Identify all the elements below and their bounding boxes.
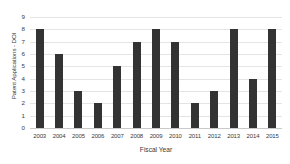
bar-slot [108, 17, 127, 128]
bar-slot [224, 17, 243, 128]
bar[interactable] [55, 54, 63, 128]
y-axis-tick-label: 5 [22, 63, 25, 69]
y-axis-tick-label: 1 [22, 113, 25, 119]
x-axis-tick-label: 2011 [185, 130, 204, 142]
y-axis-tick-label: 7 [22, 39, 25, 45]
y-axis-tick-label: 2 [22, 100, 25, 106]
x-axis-tick-label: 2003 [30, 130, 49, 142]
bar-slot [185, 17, 204, 128]
bar-chart: Patent Applications - DOI 9876543210 200… [0, 0, 290, 164]
bar[interactable] [171, 42, 179, 128]
bar[interactable] [94, 103, 102, 128]
bar[interactable] [133, 42, 141, 128]
bar[interactable] [210, 91, 218, 128]
bar[interactable] [113, 66, 121, 128]
x-axis-tick-label: 2013 [224, 130, 243, 142]
x-axis-tick-label: 2014 [243, 130, 262, 142]
x-axis-title: Fiscal Year [30, 146, 282, 153]
bar-series [30, 17, 282, 128]
y-axis-tick-label: 8 [22, 26, 25, 32]
bar-slot [49, 17, 68, 128]
bar[interactable] [230, 29, 238, 128]
x-axis-tick-label: 2005 [69, 130, 88, 142]
plot-area [30, 17, 282, 128]
y-axis-tick-label: 6 [22, 51, 25, 57]
x-axis-tick-label: 2012 [205, 130, 224, 142]
bar-slot [166, 17, 185, 128]
bar[interactable] [36, 29, 44, 128]
bar-slot [205, 17, 224, 128]
bar-slot [146, 17, 165, 128]
bar[interactable] [74, 91, 82, 128]
axis-baseline [30, 128, 282, 129]
bar-slot [88, 17, 107, 128]
bar[interactable] [249, 79, 257, 128]
bar[interactable] [268, 29, 276, 128]
y-axis-tick-label: 4 [22, 76, 25, 82]
x-axis-tick-labels: 2003200420052006200720082009201020112012… [30, 130, 282, 142]
y-axis-tick-label: 0 [22, 125, 25, 131]
bar-slot [30, 17, 49, 128]
x-axis-tick-label: 2007 [108, 130, 127, 142]
bar-slot [127, 17, 146, 128]
bar[interactable] [191, 103, 199, 128]
bar-slot [243, 17, 262, 128]
x-axis-tick-label: 2008 [127, 130, 146, 142]
x-axis-tick-label: 2010 [166, 130, 185, 142]
y-axis-tick-label: 3 [22, 88, 25, 94]
x-axis-tick-label: 2009 [146, 130, 165, 142]
bar-slot [69, 17, 88, 128]
y-axis-tick-labels: 9876543210 [0, 17, 28, 128]
x-axis-tick-label: 2015 [263, 130, 282, 142]
bar-slot [263, 17, 282, 128]
x-axis-tick-label: 2006 [88, 130, 107, 142]
y-axis-tick-label: 9 [22, 14, 25, 20]
bar[interactable] [152, 29, 160, 128]
x-axis-tick-label: 2004 [49, 130, 68, 142]
